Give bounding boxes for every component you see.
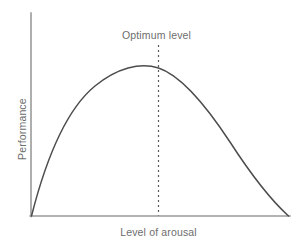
optimum-level-label: Optimum level — [6, 30, 301, 42]
arousal-performance-chart: Optimum level Level of arousal Performan… — [0, 0, 301, 247]
y-axis-label: Performance — [17, 98, 29, 160]
x-axis-label: Level of arousal — [8, 227, 301, 239]
performance-curve — [32, 66, 289, 216]
